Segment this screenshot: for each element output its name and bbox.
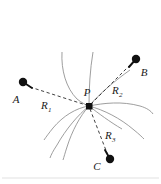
label-r1-base: R [40, 99, 48, 111]
label-r2: R 2 [111, 84, 123, 99]
field-line-upper-right [89, 70, 130, 106]
label-c: C [93, 160, 101, 172]
source-point-c: C [93, 150, 114, 172]
field-line-group [44, 52, 153, 160]
c-dot [106, 155, 114, 163]
vector-diagram-svg: A B C P R 1 R 2 R [0, 0, 161, 184]
label-r3-subscript: 3 [111, 136, 116, 144]
vector-r2-line [91, 64, 131, 104]
p-square-marker [86, 103, 93, 110]
field-line-right-lower [89, 106, 144, 139]
label-r2-base: R [111, 84, 119, 96]
label-r3-base: R [104, 129, 112, 141]
field-line-right-upper [89, 103, 153, 114]
field-line-lower-left-inner [63, 106, 89, 160]
label-r1-subscript: 1 [48, 106, 52, 114]
source-point-a: A [12, 78, 32, 105]
vector-r1-line [30, 87, 86, 105]
field-point-p: P [83, 86, 93, 110]
label-r2-subscript: 2 [119, 91, 123, 99]
figure-container: A B C P R 1 R 2 R [0, 0, 161, 184]
label-b: B [141, 66, 148, 78]
source-point-b: B [129, 55, 148, 78]
b-dot [132, 55, 140, 63]
label-a: A [12, 93, 20, 105]
a-dot [19, 78, 27, 86]
label-r3: R 3 [104, 129, 116, 144]
label-r1: R 1 [40, 99, 52, 114]
label-p: P [83, 86, 91, 98]
